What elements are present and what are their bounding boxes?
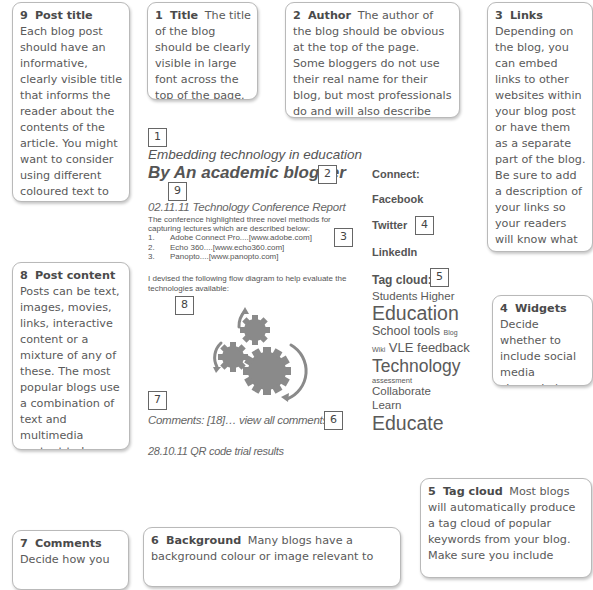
callout-number: 9 <box>20 9 28 22</box>
tag-link[interactable]: VLE <box>389 340 414 355</box>
post-link-item[interactable]: 1.Adobe Connect Pro....[www.adobe.com] <box>148 233 348 243</box>
post-heading[interactable]: 02.11.11 Technology Conference Report <box>148 201 346 213</box>
callout-number: 3 <box>495 9 503 22</box>
comments-link[interactable]: Comments: [18]… view all comments <box>148 414 328 426</box>
callout-number: 4 <box>500 302 508 315</box>
marker-9: 9 <box>168 182 187 201</box>
tag-link[interactable]: Learn <box>372 399 401 411</box>
tag-link[interactable]: Blog <box>444 329 458 336</box>
social-link-facebook[interactable]: Facebook <box>372 193 423 205</box>
callout-number: 2 <box>293 9 301 22</box>
callout-heading: Background <box>166 534 241 547</box>
callout-text: The title of the blog should be clearly … <box>155 9 251 100</box>
tag-link[interactable]: Education <box>372 302 459 324</box>
post-link[interactable]: Adobe Connect Pro....[www.adobe.com] <box>170 233 312 242</box>
tag-link[interactable]: Students <box>372 290 417 302</box>
marker-7: 7 <box>148 391 167 410</box>
tag-link[interactable]: School <box>372 324 410 338</box>
post-link[interactable]: Panopto....[www.panopto.com] <box>170 252 279 261</box>
tag-link[interactable]: Technology <box>372 356 461 376</box>
callout-title: 1 Title The title of the blog should be … <box>147 2 258 100</box>
callout-comments: 7 Comments Decide how you <box>12 530 129 590</box>
callout-widgets: 4 Widgets Decide whether to include soci… <box>492 295 593 386</box>
social-link-twitter[interactable]: Twitter <box>372 219 407 231</box>
marker-1: 1 <box>148 128 167 147</box>
callout-text: Posts can be text, images, movies, links… <box>20 285 120 450</box>
callout-heading: Post content <box>35 269 115 282</box>
callout-post-title: 9 Post title Each blog post should have … <box>12 2 130 202</box>
callout-text: Decide whether to include social media c… <box>500 318 583 386</box>
connect-label: Connect: <box>372 168 420 180</box>
tag-link[interactable]: Educate <box>372 412 444 434</box>
callout-tag-cloud: 5 Tag cloud Most blogs will automaticall… <box>420 478 592 578</box>
blog-title[interactable]: Embedding technology in education <box>148 147 362 162</box>
tag-cloud: Students Higher Education School tools B… <box>372 289 492 434</box>
callout-number: 6 <box>151 534 159 547</box>
callout-post-content: 8 Post content Posts can be text, images… <box>12 262 130 450</box>
gears-icon <box>195 305 310 405</box>
marker-8: 8 <box>175 296 194 315</box>
callout-text: Depending on the blog, you can embed lin… <box>495 25 585 252</box>
callout-heading: Title <box>170 9 198 22</box>
marker-3: 3 <box>334 228 353 247</box>
callout-heading: Author <box>308 9 351 22</box>
tag-link[interactable]: tools <box>414 324 440 338</box>
tag-link[interactable]: Wiki <box>372 346 385 353</box>
callout-links: 3 Links Depending on the blog, you can e… <box>487 2 593 252</box>
tag-link[interactable]: feedback <box>417 340 470 355</box>
callout-number: 8 <box>20 269 28 282</box>
post-link-item[interactable]: 2.Echo 360....[www.echo360.com] <box>148 243 348 253</box>
callout-number: 1 <box>155 9 163 22</box>
marker-6: 6 <box>324 411 343 430</box>
callout-number: 7 <box>20 537 28 550</box>
callout-heading: Post title <box>35 9 93 22</box>
callout-text: The author of the blog should be obvious… <box>293 9 452 118</box>
blog-author[interactable]: By An academic blogger <box>148 163 346 183</box>
post-link-list: 1.Adobe Connect Pro....[www.adobe.com] 2… <box>148 233 348 262</box>
next-post-link[interactable]: 28.10.11 QR code trial results <box>148 445 284 457</box>
callout-heading: Comments <box>35 537 102 550</box>
callout-heading: Links <box>510 9 543 22</box>
marker-2: 2 <box>318 165 337 184</box>
tag-link[interactable]: Higher <box>421 290 455 302</box>
tag-cloud-label: Tag cloud: <box>372 273 432 287</box>
callout-heading: Widgets <box>515 302 567 315</box>
callout-text: Each blog post should have an informativ… <box>20 25 122 202</box>
post-link[interactable]: Echo 360....[www.echo360.com] <box>170 243 284 252</box>
tag-link[interactable]: assessment <box>372 376 412 385</box>
callout-text: Decide how you <box>20 553 110 566</box>
marker-5: 5 <box>430 268 449 287</box>
callout-heading: Tag cloud <box>443 485 503 498</box>
callout-author: 2 Author The author of the blog should b… <box>285 2 460 118</box>
tag-link[interactable]: Collaborate <box>372 385 431 397</box>
post-link-item[interactable]: 3.Panopto....[www.panopto.com] <box>148 252 348 262</box>
diagram-intro: I devised the following flow diagram to … <box>148 274 358 293</box>
marker-4: 4 <box>415 216 434 235</box>
callout-number: 5 <box>428 485 436 498</box>
callout-background: 6 Background Many blogs have a backgroun… <box>143 527 401 587</box>
post-intro: The conference highlighted three novel m… <box>148 215 358 233</box>
social-link-linkedin[interactable]: LinkedIn <box>372 246 417 258</box>
